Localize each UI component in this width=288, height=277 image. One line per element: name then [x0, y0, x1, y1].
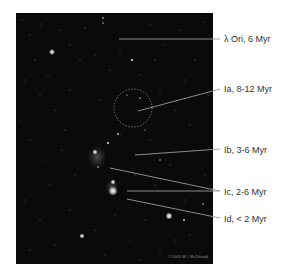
label-id: Id, < 2 Myr [224, 214, 267, 224]
leader-line-ib [135, 149, 220, 155]
label-ic: Ic, 2-6 Myr [224, 187, 267, 197]
bright-star [111, 180, 116, 185]
leader-lines [110, 39, 220, 218]
brightest-star [109, 187, 118, 196]
bright-star [166, 213, 173, 220]
ia-region-dashed-circle [114, 89, 152, 127]
leader-line-id [127, 199, 220, 218]
bright-star [49, 49, 55, 55]
copyright-text: © 2005 W. / McDonald [168, 254, 208, 259]
label-ib: Ib, 3-6 Myr [224, 145, 267, 155]
bright-star [93, 150, 98, 155]
nebula-glow [87, 145, 107, 169]
faint-stars [20, 20, 209, 261]
bright-star [80, 234, 85, 239]
label-lambda-ori: λ Ori, 6 Myr [224, 34, 271, 44]
label-ia: Ia, 8-12 Myr [224, 84, 272, 94]
leader-line-ia [138, 89, 220, 111]
star-field [20, 17, 209, 260]
leader-line-ic-1 [110, 168, 220, 191]
